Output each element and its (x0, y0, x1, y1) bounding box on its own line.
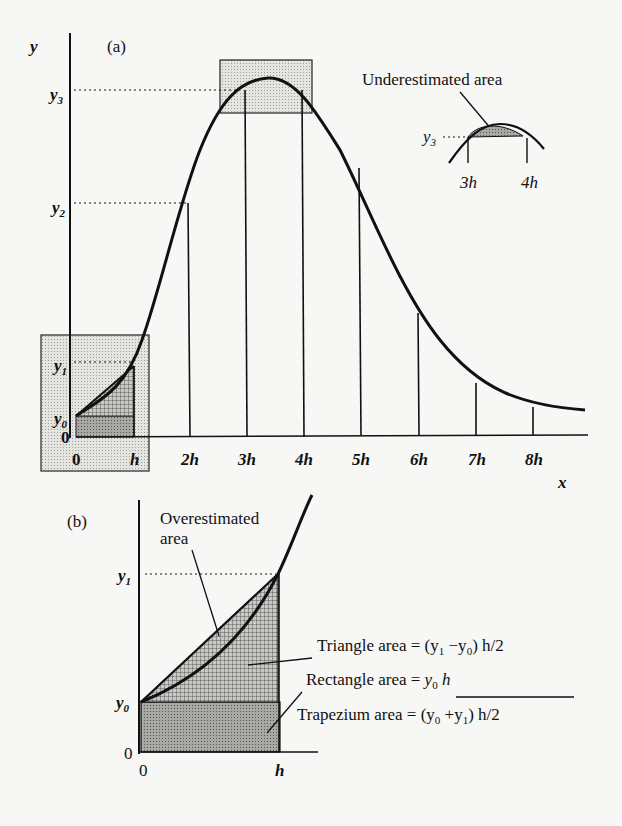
svg-text:6h: 6h (410, 450, 428, 469)
rectangle-area (141, 702, 280, 752)
svg-text:4h: 4h (294, 450, 313, 469)
dotted-guides (74, 90, 240, 362)
overestimated-label-1: Overestimated (160, 509, 260, 528)
underestimated-label: Underestimated area (362, 70, 503, 89)
svg-text:7h: 7h (468, 450, 486, 469)
svg-text:h: h (130, 450, 139, 469)
y3-label: y3 (48, 85, 64, 106)
overestimated-label-2: area (160, 529, 189, 548)
panel-b-y-zero: 0 (124, 744, 133, 763)
trapezium-rule-diagram: y (a) y3 y2 y1 y0 0 0 h 2h 3h 4h 5h 6h 7… (0, 0, 622, 826)
inset-4h-label: 4h (521, 173, 538, 192)
svg-text:0: 0 (72, 450, 81, 469)
svg-text:3h: 3h (237, 450, 256, 469)
panel-b-x-zero: 0 (139, 761, 148, 780)
panel-a: y (a) y3 y2 y1 y0 0 0 h 2h 3h 4h 5h 6h 7… (28, 33, 588, 492)
panel-b-h-label: h (275, 761, 284, 780)
y-zero-label: 0 (61, 428, 70, 447)
trapezium-formula: Trapezium area = (y0 +y1) h/2 (297, 705, 500, 726)
y-axis-label: y (28, 37, 38, 56)
highlight-box-peak (220, 60, 312, 113)
panel-b-label: (b) (67, 512, 87, 531)
panel-b: (b) Overestimated area y1 y0 0 0 h Trian… (67, 495, 574, 780)
inset-3h-label: 3h (459, 173, 477, 192)
panel-b-y1-label: y1 (116, 566, 131, 587)
x-axis (76, 435, 588, 437)
first-strip-rectangle (76, 416, 134, 437)
panel-a-label: (a) (107, 37, 126, 56)
svg-text:5h: 5h (352, 450, 370, 469)
triangle-formula: Triangle area = (y1 −y0) h/2 (317, 636, 504, 657)
rectangle-formula: Rectangle area = y0 h (306, 670, 450, 691)
svg-text:2h: 2h (180, 450, 199, 469)
x-axis-label: x (557, 473, 567, 492)
y2-label: y2 (50, 198, 66, 219)
panel-b-y0-label: y0 (114, 693, 130, 714)
overestimated-pointer (192, 550, 219, 636)
svg-text:8h: 8h (525, 450, 543, 469)
inset-y3-label: y3 (421, 127, 437, 148)
inset-underestimated: Underestimated area y3 3h 4h (362, 70, 544, 192)
